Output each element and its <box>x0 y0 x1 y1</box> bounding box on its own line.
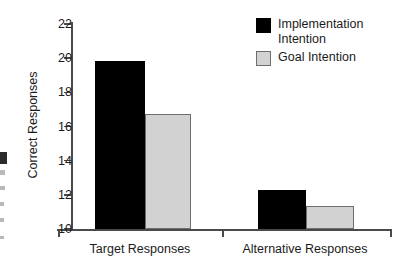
x-axis-tick <box>390 229 392 237</box>
bar <box>95 61 145 229</box>
y-axis-tick-label: 18 <box>44 86 72 99</box>
scan-artifact <box>0 152 7 164</box>
x-axis-group-label: Alternative Responses <box>242 242 367 256</box>
y-axis-tick-label: 20 <box>44 52 72 65</box>
scan-artifact <box>0 202 4 206</box>
x-axis-line <box>57 229 392 231</box>
scan-artifact <box>0 218 4 222</box>
bar <box>306 206 354 229</box>
legend-label-goal-intention: Goal Intention <box>278 50 356 65</box>
legend-swatch-goal-intention <box>256 51 271 66</box>
y-axis-tick-label: 12 <box>44 189 72 202</box>
legend-swatch-implementation-intention <box>256 18 271 33</box>
y-axis-title: Correct Responses <box>26 45 40 205</box>
legend-item: Implementation Intention <box>256 17 396 47</box>
scan-artifact <box>0 170 5 175</box>
scan-artifact <box>0 236 4 239</box>
legend-item: Goal Intention <box>256 50 396 66</box>
bar-chart-figure: Correct Responses 10121416182022 Target … <box>0 0 397 270</box>
y-axis-tick-label: 22 <box>44 18 72 31</box>
y-axis-tick-label: 14 <box>44 155 72 168</box>
chart-legend: Implementation Intention Goal Intention <box>256 17 396 69</box>
bar <box>145 114 191 229</box>
bar <box>258 190 306 229</box>
x-axis-group-label: Target Responses <box>90 242 191 256</box>
y-axis-tick-label: 16 <box>44 121 72 134</box>
x-axis-tick <box>58 229 60 237</box>
x-axis-tick <box>222 229 224 237</box>
legend-label-implementation-intention: Implementation Intention <box>278 17 363 47</box>
scan-artifact <box>0 186 5 190</box>
